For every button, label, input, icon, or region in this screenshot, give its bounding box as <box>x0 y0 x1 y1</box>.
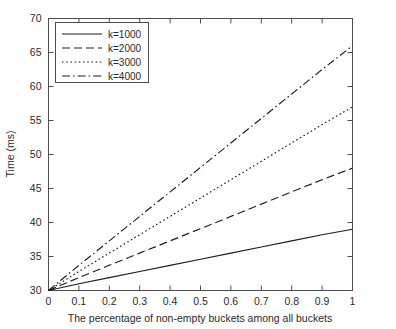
x-tick-label: 0.8 <box>284 295 299 307</box>
y-tick-label: 30 <box>30 284 42 296</box>
x-tick-label: 0.9 <box>315 295 330 307</box>
y-tick-label: 45 <box>30 182 42 194</box>
y-tick-label: 60 <box>30 80 42 92</box>
x-tick-label: 1 <box>350 295 356 307</box>
y-axis-tick-labels: 303540455055606570 <box>30 12 42 296</box>
legend-label-k-2000: k=2000 <box>108 43 142 54</box>
series-line-k-2000 <box>49 168 353 290</box>
y-tick-label: 55 <box>30 114 42 126</box>
legend-label-k-4000: k=4000 <box>108 71 142 82</box>
x-tick-label: 0.7 <box>254 295 269 307</box>
x-tick-label: 0 <box>46 295 52 307</box>
legend: k=1000k=2000k=3000k=4000 <box>56 23 149 83</box>
legend-label-k-3000: k=3000 <box>108 57 142 68</box>
y-axis-title: Time (ms) <box>4 131 16 178</box>
x-tick-label: 0.1 <box>72 295 87 307</box>
x-tick-label: 0.3 <box>132 295 147 307</box>
series-line-k-1000 <box>49 229 353 290</box>
series-line-k-3000 <box>49 107 353 291</box>
y-tick-label: 35 <box>30 250 42 262</box>
x-axis-tick-labels: 00.10.20.30.40.50.60.70.80.91 <box>46 295 356 307</box>
figure-container: 303540455055606570 00.10.20.30.40.50.60.… <box>0 0 396 329</box>
x-axis-title: The percentage of non-empty buckets amon… <box>68 312 332 324</box>
y-tick-label: 40 <box>30 216 42 228</box>
x-tick-label: 0.4 <box>163 295 178 307</box>
line-chart: 303540455055606570 00.10.20.30.40.50.60.… <box>0 0 396 329</box>
x-tick-label: 0.5 <box>193 295 208 307</box>
y-tick-label: 70 <box>30 12 42 24</box>
x-tick-label: 0.6 <box>224 295 239 307</box>
y-tick-label: 65 <box>30 46 42 58</box>
y-tick-label: 50 <box>30 148 42 160</box>
legend-label-k-1000: k=1000 <box>108 29 142 40</box>
x-tick-label: 0.2 <box>102 295 117 307</box>
